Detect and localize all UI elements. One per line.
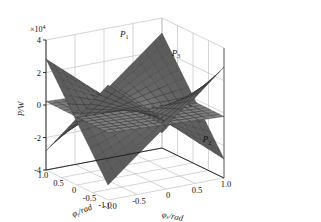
figure-3d-surface-plot: 420-2-41.00.50-0.5-1.0-1.0-0.500.51.0 ×1…	[0, 0, 321, 222]
z-tick-label: 0	[37, 100, 41, 110]
z-tick-label: -2	[34, 133, 41, 143]
y-tick-label: 1.0	[38, 170, 49, 180]
y-tick-label: 0.5	[53, 178, 64, 188]
x-tick-label: -1.0	[103, 201, 116, 211]
x-tick-label: 0	[166, 190, 170, 200]
x-tick-label: 1.0	[221, 179, 232, 189]
z-tick-label: 2	[37, 68, 41, 78]
z-axis-title: P/W	[16, 101, 26, 118]
x-tick-label: -0.5	[132, 196, 145, 206]
plot-canvas: 420-2-41.00.50-0.5-1.0-1.0-0.500.51.0 ×1…	[0, 0, 321, 222]
y-tick-label: 0	[72, 185, 76, 195]
x-tick-label: 0.5	[192, 185, 203, 195]
y-tick-label: -0.5	[83, 193, 96, 203]
